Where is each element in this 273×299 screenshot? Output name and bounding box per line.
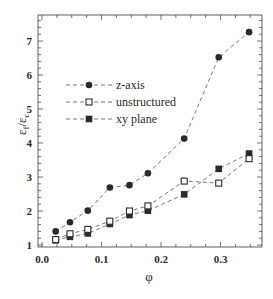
open-square-marker [246,156,252,162]
x-tick-label: 0.3 [214,253,228,265]
open-square-marker [107,218,113,224]
x-axis-label: φ [145,269,153,284]
x-tick-label: 0.2 [154,253,168,265]
open-square-marker [145,203,151,209]
y-tick-label: 4 [27,137,33,149]
y-tick-label: 1 [27,239,33,251]
circle-marker [215,54,222,61]
filled-square-marker [181,191,188,198]
x-tick-label: 0.0 [35,253,49,265]
circle-marker [246,29,253,36]
open-square-marker [181,178,187,184]
circle-marker [181,135,188,142]
filled-square-marker [215,166,222,173]
y-tick-label: 2 [27,205,33,217]
open-square-marker [67,231,73,237]
y-tick-label: 6 [27,69,33,81]
y-tick-label: 3 [27,171,33,183]
filled-square-marker [86,116,93,123]
circle-marker [126,182,133,189]
legend-label: unstructured [116,95,176,109]
open-square-marker [86,99,92,105]
y-tick-label: 5 [27,103,33,115]
legend-label: z-axis [116,78,145,92]
circle-marker [86,82,93,89]
circle-marker [145,170,152,177]
legend-label: xy plane [116,112,157,126]
circle-marker [52,228,59,235]
chart: 0.00.10.20.31234567 z-axisunstructuredxy… [0,0,273,299]
open-square-marker [53,237,59,243]
open-square-marker [216,180,222,186]
circle-marker [67,219,74,226]
circle-marker [85,207,92,214]
x-tick-label: 0.1 [95,253,109,265]
y-tick-label: 7 [27,35,33,47]
open-square-marker [126,208,132,214]
y-label-sub-c: c [21,113,31,117]
open-square-marker [85,226,91,232]
circle-marker [107,184,114,191]
